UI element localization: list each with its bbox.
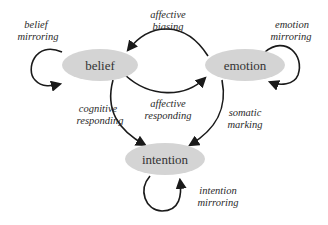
- node-belief-label: belief: [85, 58, 115, 73]
- label-cognitive-responding: cognitive responding: [77, 103, 124, 126]
- edge-affective-responding: [125, 75, 205, 93]
- svg-text:biasing: biasing: [153, 21, 184, 32]
- svg-text:mirroring: mirroring: [197, 197, 238, 208]
- edge-affective-biasing: [128, 29, 208, 56]
- label-affective-biasing: affective biasing: [150, 9, 186, 32]
- node-emotion-label: emotion: [224, 58, 267, 73]
- node-intention: intention: [125, 143, 205, 175]
- edge-belief-mirroring: [31, 49, 62, 86]
- node-belief: belief: [62, 49, 138, 81]
- label-somatic-marking: somatic marking: [228, 107, 263, 130]
- node-intention-label: intention: [142, 152, 189, 167]
- edge-intention-mirroring: [144, 176, 181, 211]
- svg-text:marking: marking: [228, 119, 263, 130]
- node-emotion: emotion: [205, 49, 285, 81]
- svg-text:somatic: somatic: [229, 107, 262, 118]
- svg-text:emotion: emotion: [275, 19, 309, 30]
- svg-text:belief: belief: [24, 19, 49, 30]
- svg-text:mirroring: mirroring: [17, 31, 58, 42]
- label-emotion-mirroring: emotion mirroring: [270, 19, 311, 42]
- label-intention-mirroring: intention mirroring: [197, 185, 238, 208]
- svg-text:responding: responding: [145, 110, 192, 121]
- label-affective-responding: affective responding: [145, 98, 192, 121]
- svg-text:mirroring: mirroring: [270, 31, 311, 42]
- edge-somatic-marking: [190, 80, 223, 145]
- svg-text:intention: intention: [199, 185, 236, 196]
- belief-emotion-intention-diagram: belief emotion intention belief mirrorin…: [0, 0, 328, 225]
- svg-text:cognitive: cognitive: [79, 103, 118, 114]
- svg-text:responding: responding: [77, 115, 124, 126]
- label-belief-mirroring: belief mirroring: [17, 19, 58, 42]
- svg-text:affective: affective: [150, 98, 186, 109]
- svg-text:affective: affective: [150, 9, 186, 20]
